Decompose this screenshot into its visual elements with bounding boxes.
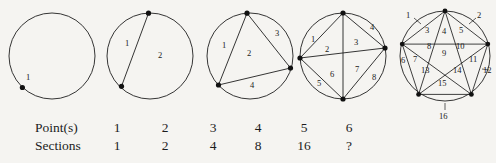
points-cell: 3	[202, 120, 224, 136]
circle-2-points-group: 1 2	[107, 11, 193, 99]
circle-5-points-group: 1 2 3 4 5 6 7 8 9 10 11 12 13 14 15 16	[400, 9, 492, 120]
region-label: 1	[125, 38, 129, 48]
points-cell: 5	[293, 120, 315, 136]
point-dot	[416, 92, 421, 97]
region-label: 13	[421, 65, 430, 75]
point-dot	[469, 92, 474, 97]
region-label: 1	[222, 40, 226, 50]
table-row: Point(s) 1 2 3 4 5 6	[0, 120, 496, 139]
chord	[402, 44, 418, 94]
region-label: 10	[456, 41, 465, 51]
circle-3-points-group: 1 2 3 4	[207, 11, 293, 99]
region-label: 1	[311, 34, 315, 44]
region-label: 2	[477, 10, 481, 20]
region-label: 2	[247, 48, 251, 58]
region-label: 12	[483, 65, 492, 75]
sections-cell: 8	[247, 138, 269, 154]
region-label: 4	[250, 80, 255, 90]
table-row: Sections 1 2 4 8 16 ?	[0, 138, 496, 157]
row-header-sections: Sections	[35, 138, 81, 154]
sections-cell: 16	[293, 138, 315, 154]
chord	[300, 48, 385, 58]
point-dot	[443, 9, 448, 14]
region-label: 3	[354, 37, 358, 47]
points-cell: 6	[338, 120, 360, 136]
points-cell: 2	[154, 120, 176, 136]
region-label: 15	[438, 78, 447, 88]
chord	[247, 13, 291, 68]
point-dot	[340, 10, 345, 15]
region-label: 7	[355, 64, 359, 74]
region-label: 14	[453, 65, 462, 75]
chord	[445, 11, 471, 94]
region-label: 1	[406, 10, 410, 20]
region-label: 6	[330, 69, 334, 79]
figure-root: 1 1 2 1 2 3 4	[0, 0, 496, 163]
region-label: 5	[317, 78, 321, 88]
sections-cell: 4	[202, 138, 224, 154]
region-label: 8	[372, 72, 376, 82]
region-label: 8	[427, 41, 431, 51]
region-label: 1	[26, 72, 30, 82]
points-cell: 4	[247, 120, 269, 136]
sections-cell: 2	[154, 138, 176, 154]
region-label: 5	[459, 25, 463, 35]
point-dot	[382, 45, 387, 50]
point-dot	[216, 82, 221, 87]
sections-cell: 1	[106, 138, 128, 154]
point-dot	[119, 84, 124, 89]
chord	[300, 13, 343, 58]
region-label: 3	[425, 25, 429, 35]
sections-table: Point(s) 1 2 3 4 5 6 Sections 1 2 4 8 16…	[0, 118, 496, 163]
sections-cell: ?	[338, 138, 360, 154]
point-dot	[288, 65, 293, 70]
region-label: 2	[325, 44, 329, 54]
chord	[343, 48, 385, 99]
region-label: 2	[158, 50, 162, 60]
region-label: 9	[442, 48, 446, 58]
point-dot	[400, 42, 405, 47]
circle-1-point-group: 1	[9, 13, 95, 99]
point-dot	[340, 96, 345, 101]
point-dot	[20, 85, 25, 90]
region-label: 7	[413, 54, 417, 64]
chord	[122, 13, 149, 86]
row-header-points: Point(s)	[35, 120, 78, 136]
circle-4-points-group: 1 2 3 4 5 6 7 8	[297, 10, 387, 101]
circles-diagram: 1 1 2 1 2 3 4	[0, 0, 496, 120]
region-label: 11	[469, 54, 477, 64]
point-dot	[146, 11, 151, 16]
region-label: 6	[401, 55, 405, 65]
point-dot	[297, 55, 302, 60]
point-dot	[485, 42, 490, 47]
region-label: 3	[275, 28, 279, 38]
points-cell: 1	[106, 120, 128, 136]
chord	[219, 68, 291, 85]
point-dot	[244, 11, 249, 16]
region-label: 4	[442, 26, 447, 36]
